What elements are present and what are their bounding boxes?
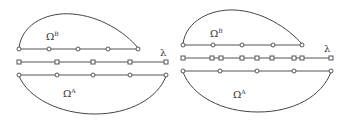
circle-node-marker xyxy=(211,43,215,47)
square-node-marker xyxy=(292,56,296,60)
square-node-marker xyxy=(164,60,168,64)
omega-a-boundary-arc xyxy=(19,76,166,114)
square-node-marker xyxy=(329,56,333,60)
lambda-label: λ xyxy=(160,47,167,58)
square-node-marker xyxy=(55,60,59,64)
circle-node-marker xyxy=(17,47,21,51)
lambda-label: λ xyxy=(324,43,331,54)
circle-node-marker xyxy=(329,69,333,73)
omega-b-label: ΩB xyxy=(210,27,223,39)
circle-node-marker xyxy=(300,43,304,47)
circle-node-marker xyxy=(47,47,51,51)
square-node-marker xyxy=(128,60,132,64)
square-node-marker xyxy=(219,56,223,60)
circle-node-marker xyxy=(136,47,140,51)
circle-node-marker xyxy=(218,69,222,73)
omega-a-boundary-arc xyxy=(183,72,331,112)
circle-node-marker xyxy=(181,43,185,47)
circle-node-marker xyxy=(255,69,259,73)
square-node-marker xyxy=(240,56,244,60)
panel-left: ΩB ΩA λ xyxy=(17,14,168,114)
circle-node-marker xyxy=(17,73,21,77)
omega-b-label: ΩB xyxy=(46,30,59,42)
square-node-marker xyxy=(255,56,259,60)
square-node-marker xyxy=(270,56,274,60)
circle-node-marker xyxy=(128,73,132,77)
circle-node-marker xyxy=(106,47,110,51)
omega-b-boundary-arc xyxy=(19,14,138,48)
circle-node-marker xyxy=(181,69,185,73)
circle-node-marker xyxy=(91,73,95,77)
square-node-marker xyxy=(210,56,214,60)
circle-node-marker xyxy=(55,73,59,77)
square-node-marker xyxy=(181,56,185,60)
omega-a-label: ΩA xyxy=(63,87,76,99)
omega-a-label: ΩA xyxy=(233,88,246,100)
circle-node-marker xyxy=(240,43,244,47)
square-node-marker xyxy=(300,56,304,60)
circle-node-marker xyxy=(76,47,80,51)
circle-node-marker xyxy=(292,69,296,73)
diagram-canvas: ΩB ΩA λ ΩB ΩA λ xyxy=(0,0,347,123)
square-node-marker xyxy=(91,60,95,64)
omega-b-boundary-arc xyxy=(183,10,302,44)
square-node-marker xyxy=(17,60,21,64)
panel-right: ΩB ΩA λ xyxy=(181,10,333,112)
circle-node-marker xyxy=(164,73,168,77)
circle-node-marker xyxy=(271,43,275,47)
